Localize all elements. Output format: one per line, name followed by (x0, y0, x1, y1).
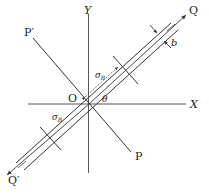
band-width-label: b (171, 37, 177, 48)
b-arrow-upper (150, 25, 157, 33)
sigma-b-upper-label: σB (95, 70, 106, 81)
sigma-b-lower-label: σB (52, 112, 63, 123)
b-arrow-lower (164, 41, 171, 48)
x-axis-label: X (189, 98, 199, 111)
p-label: P (135, 150, 143, 163)
qq-prime-axis-arrow (89, 15, 186, 104)
qq-prime-axis-arrow-lower (7, 104, 89, 175)
q-prime-label: Q′ (8, 174, 20, 187)
diagram-stage: Y X O P′ P Q Q′ θ σB σB b (0, 0, 209, 195)
p-prime-label: P′ (24, 26, 34, 39)
theta-label: θ (102, 94, 108, 104)
band-line-lower (24, 30, 178, 170)
origin-label: O (68, 92, 77, 105)
y-axis-label: Y (84, 4, 93, 17)
diagram-svg: Y X O P′ P Q Q′ θ σB σB b (0, 0, 209, 195)
band-line-upper (16, 23, 171, 163)
q-label: Q (189, 4, 198, 17)
